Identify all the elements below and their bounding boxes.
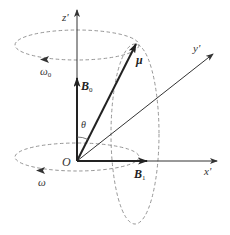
origin-label: O	[62, 156, 71, 168]
nutation-orbit-vertical	[111, 44, 159, 224]
b0-label-main: B	[81, 79, 89, 93]
omega0-label-main: ω	[40, 65, 48, 77]
b1-label: B1	[134, 168, 146, 182]
theta-label: θ	[81, 120, 86, 130]
y-axis-line	[77, 54, 213, 161]
omega0-label-subscript: 0	[48, 71, 52, 79]
diagram-canvas	[0, 0, 230, 235]
b0-label: B0	[81, 80, 93, 94]
omega0-direction-arrow-icon	[40, 56, 49, 63]
b1-label-subscript: 1	[142, 174, 146, 182]
b0-label-subscript: 0	[89, 86, 93, 94]
b1-label-main: B	[134, 167, 142, 181]
precession-diagram: z' x' y' μ B0 B1 ω0 ω θ O	[0, 0, 230, 235]
mu-label: μ	[136, 54, 143, 66]
theta-angle-arc	[77, 137, 88, 140]
mu-vector	[77, 44, 136, 161]
z-axis-label: z'	[62, 12, 69, 23]
y-axis-label: y'	[193, 43, 200, 54]
omega0-label: ω0	[40, 66, 51, 79]
x-axis-label: x'	[204, 166, 211, 177]
omega-label: ω	[38, 177, 46, 188]
